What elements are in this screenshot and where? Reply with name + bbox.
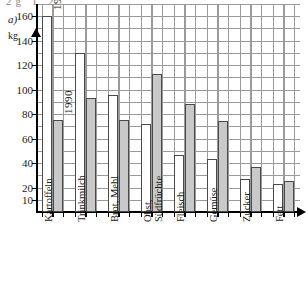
category-label-trinkmilch: Trinkmilch	[76, 175, 87, 222]
category-label-fleisch: Fleisch	[175, 192, 186, 222]
gridline-vertical	[228, 4, 229, 212]
bar-1990-gemüse	[218, 121, 229, 212]
category-label-fett: Fett	[274, 206, 285, 222]
category-label-line: Gemüse	[208, 188, 219, 222]
chart-page: 2g 1 2 a) kg 1601401201008060402010 1955…	[0, 0, 308, 290]
category-label-zucker: Zucker	[241, 192, 252, 222]
year-annotation-1955: 1955	[51, 0, 63, 10]
gridline-vertical	[261, 4, 262, 212]
y-axis-tick-label: 160	[17, 11, 34, 22]
bar-1990-brotmehl	[119, 120, 130, 212]
year-annotation-1990: 1990	[62, 90, 74, 114]
category-label-line: Kartoffeln	[43, 178, 54, 222]
x-axis-arrow-icon	[297, 207, 306, 217]
y-axis-tick-labels: 1601401201008060402010	[0, 0, 33, 290]
category-label-line: Zucker	[241, 192, 252, 222]
y-axis-tick-mark	[32, 188, 36, 189]
y-axis-tick-label: 100	[17, 84, 34, 95]
y-axis-tick-mark	[32, 65, 36, 66]
y-axis-tick-mark	[32, 139, 36, 140]
y-axis-tick-mark	[32, 16, 36, 17]
bar-1990-fleisch	[185, 104, 196, 212]
category-label-obstsüdfrüchte: Obst,Südfrüchte	[142, 176, 164, 222]
bar-1990-trinkmilch	[86, 98, 97, 212]
gridline-vertical	[96, 4, 97, 212]
y-axis-tick-label: 120	[17, 60, 34, 71]
x-axis-tick-mark	[228, 213, 229, 217]
gridline-vertical	[195, 4, 196, 212]
category-label-gemüse: Gemüse	[208, 188, 219, 222]
gridline-vertical	[273, 4, 274, 212]
bar-1990-kartoffeln	[53, 120, 64, 212]
category-label-line: Trinkmilch	[76, 175, 87, 222]
bar-1990-zucker	[251, 167, 262, 212]
category-label-line: Südfrüchte	[153, 176, 164, 222]
category-label-line: Fett	[274, 206, 285, 222]
category-label-line: Obst,	[142, 200, 153, 222]
bar-1990-fett	[284, 181, 295, 212]
category-label-brotmehl: Brot, Mehl	[109, 176, 120, 222]
gridline-vertical	[129, 4, 130, 212]
x-axis-tick-mark	[261, 213, 262, 217]
y-axis-tick-mark	[32, 90, 36, 91]
x-axis-tick-mark	[96, 213, 97, 217]
x-axis-tick-mark	[129, 213, 130, 217]
y-axis-tick-mark	[32, 114, 36, 115]
gridline-vertical	[294, 4, 295, 212]
x-axis-tick-mark	[195, 213, 196, 217]
category-label-line: Fleisch	[175, 192, 186, 222]
category-label-kartoffeln: Kartoffeln	[43, 178, 54, 222]
category-label-line: Brot, Mehl	[109, 176, 120, 222]
x-axis-tick-mark	[63, 213, 64, 217]
y-axis-tick-label: 140	[17, 35, 34, 46]
x-axis-tick-mark	[294, 213, 295, 217]
y-axis-tick-mark	[32, 163, 36, 164]
y-axis-tick-mark	[32, 41, 36, 42]
y-axis-tick-mark	[32, 200, 36, 201]
